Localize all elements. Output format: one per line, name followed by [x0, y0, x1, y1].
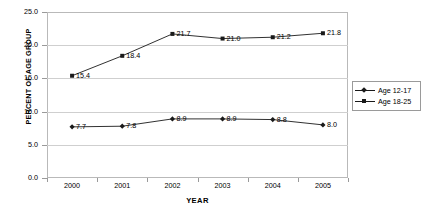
data-point-square — [321, 31, 325, 35]
data-point-label: 7.7 — [76, 122, 86, 131]
data-point-label: 21.0 — [227, 34, 241, 43]
data-point-square — [120, 54, 124, 58]
data-point-label: 8.0 — [327, 120, 337, 129]
data-point-label: 8.9 — [227, 114, 237, 123]
data-point-label: 7.8 — [126, 121, 136, 130]
legend-marker-square-icon — [355, 97, 375, 106]
data-point-label: 18.4 — [126, 51, 140, 60]
line-chart: PERCENT OF AGE GROUP 0.05.010.015.020.02… — [0, 0, 424, 213]
data-point-diamond — [270, 117, 275, 122]
data-point-label: 15.4 — [76, 71, 90, 80]
data-point-diamond — [320, 122, 325, 127]
data-point-diamond — [220, 116, 225, 121]
legend: Age 12-17 Age 18-25 — [352, 81, 421, 111]
legend-label: Age 12-17 — [375, 86, 411, 95]
data-point-label: 8.9 — [176, 114, 186, 123]
data-point-label: 21.8 — [327, 28, 341, 37]
x-axis-title: YEAR — [47, 196, 348, 205]
data-point-square — [70, 74, 74, 78]
legend-item-age-12-17[interactable]: Age 12-17 — [355, 85, 417, 96]
data-point-label: 8.8 — [277, 115, 287, 124]
data-point-label: 21.7 — [176, 29, 190, 38]
legend-item-age-18-25[interactable]: Age 18-25 — [355, 96, 417, 107]
data-point-diamond — [120, 124, 125, 129]
data-point-diamond — [170, 116, 175, 121]
data-point-square — [271, 35, 275, 39]
data-point-square — [170, 32, 174, 36]
legend-label: Age 18-25 — [375, 97, 411, 106]
data-point-label: 21.2 — [277, 32, 291, 41]
data-point-square — [221, 37, 225, 41]
legend-marker-diamond-icon — [355, 86, 375, 95]
data-point-diamond — [69, 124, 74, 129]
